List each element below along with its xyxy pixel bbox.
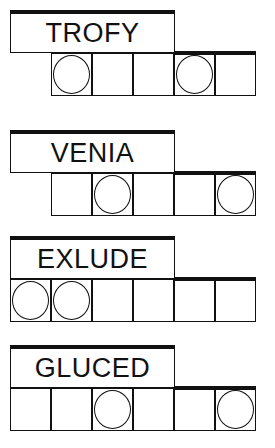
letter-box[interactable]: [10, 279, 51, 322]
scrambled-word: EXLUDE: [10, 236, 175, 279]
circle-marker-icon: [94, 390, 131, 429]
circle-marker-icon: [12, 281, 49, 320]
letter-box[interactable]: [133, 173, 174, 216]
letter-box[interactable]: [174, 388, 215, 431]
letter-box[interactable]: [133, 279, 174, 322]
thick-border: [174, 277, 256, 281]
letter-box[interactable]: [51, 53, 92, 96]
letter-box[interactable]: [92, 388, 133, 431]
circle-marker-icon: [176, 55, 213, 94]
circle-marker-icon: [217, 390, 254, 429]
letter-box[interactable]: [92, 279, 133, 322]
letter-box[interactable]: [174, 279, 215, 322]
letter-box[interactable]: [215, 53, 256, 96]
letter-box[interactable]: [10, 388, 51, 431]
thick-border: [174, 51, 256, 55]
letter-box[interactable]: [174, 173, 215, 216]
circle-marker-icon: [217, 175, 254, 214]
letter-box[interactable]: [51, 388, 92, 431]
letter-box[interactable]: [174, 53, 215, 96]
thick-border: [174, 386, 256, 390]
circle-marker-icon: [94, 175, 131, 214]
scrambled-word: VENIA: [10, 130, 175, 173]
letter-box[interactable]: [51, 173, 92, 216]
letter-box[interactable]: [215, 173, 256, 216]
letter-box[interactable]: [215, 388, 256, 431]
letter-box[interactable]: [215, 279, 256, 322]
circle-marker-icon: [53, 55, 90, 94]
scrambled-word: TROFY: [10, 10, 175, 53]
letter-box[interactable]: [92, 173, 133, 216]
letter-box[interactable]: [133, 388, 174, 431]
scrambled-word: GLUCED: [10, 345, 175, 388]
circle-marker-icon: [53, 281, 90, 320]
letter-box[interactable]: [92, 53, 133, 96]
letter-box[interactable]: [133, 53, 174, 96]
thick-border: [174, 171, 256, 175]
letter-box[interactable]: [51, 279, 92, 322]
